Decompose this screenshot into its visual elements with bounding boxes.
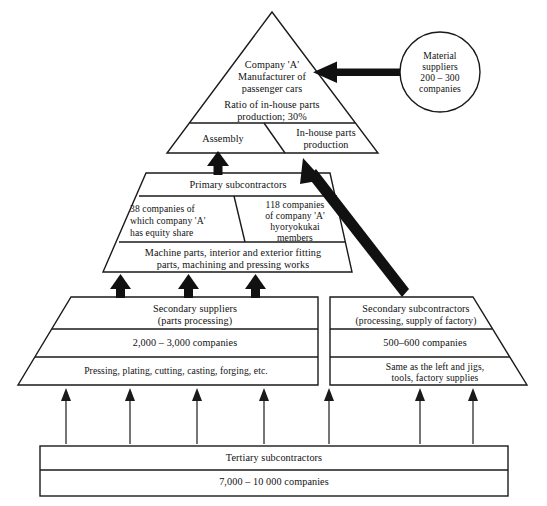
material-suppliers-line2: suppliers xyxy=(405,61,475,72)
apex-inhouse-line2: production xyxy=(283,139,369,151)
arrow-secondary-to-primary-1 xyxy=(110,274,131,298)
apex-company-line2: Manufacturer of xyxy=(197,71,347,83)
secondary-suppliers-heading-line2: (parts processing) xyxy=(80,315,310,327)
arrow-tertiary-1 xyxy=(61,388,71,444)
diagram-canvas: Company 'A' Manufacturer of passenger ca… xyxy=(0,0,547,506)
primary-left-line1: 38 companies of xyxy=(130,203,230,214)
arrow-tertiary-2 xyxy=(125,388,135,444)
arrow-primary-to-assembly xyxy=(207,151,229,175)
secondary-sub-heading-line1: Secondary subcontractors xyxy=(336,303,496,315)
secondary-suppliers-detail: Pressing, plating, cutting, casting, for… xyxy=(40,365,312,376)
primary-works-line2: parts, machining and pressing works xyxy=(113,259,353,271)
secondary-sub-detail-line1: Same as the left and jigs, xyxy=(355,361,515,372)
secondary-sub-heading-line2: (processing, supply of factory) xyxy=(332,315,500,326)
apex-assembly-label: Assembly xyxy=(178,133,268,145)
apex-ratio-line1: Ratio of in-house parts xyxy=(186,99,358,111)
arrow-tertiary-3 xyxy=(192,388,202,444)
secondary-suppliers-heading-line1: Secondary suppliers xyxy=(80,303,310,315)
apex-company-line3: passenger cars xyxy=(197,83,347,95)
arrow-tertiary-4 xyxy=(259,388,269,444)
arrow-tertiary-7 xyxy=(468,388,478,444)
apex-inhouse-line1: In-house parts xyxy=(283,127,369,139)
primary-left-line3: has equity share xyxy=(130,227,235,238)
secondary-sub-count: 500–600 companies xyxy=(345,337,505,349)
material-suppliers-line3: 200 – 300 xyxy=(405,72,475,83)
primary-heading: Primary subcontractors xyxy=(148,179,328,191)
primary-right-line1: 118 companies xyxy=(250,199,340,210)
secondary-suppliers-count: 2,000 – 3,000 companies xyxy=(60,337,310,349)
arrow-tertiary-5 xyxy=(324,388,334,444)
material-suppliers-line1: Material xyxy=(405,50,475,61)
secondary-sub-detail-line2: tools, factory supplies xyxy=(355,372,515,383)
primary-works-line1: Machine parts, interior and exterior fit… xyxy=(113,247,353,259)
primary-left-line2: which company 'A' xyxy=(130,215,235,226)
arrow-secondary-to-primary-3 xyxy=(245,274,266,298)
apex-ratio-line2: production; 30% xyxy=(186,111,358,123)
apex-company-line1: Company 'A' xyxy=(197,59,347,71)
tertiary-count: 7,000 – 10 000 companies xyxy=(40,476,508,488)
primary-right-line4: members xyxy=(250,232,340,243)
material-suppliers-line4: companies xyxy=(405,83,475,94)
primary-right-line3: hyoryokukai xyxy=(250,221,340,232)
arrow-secondary-to-primary-2 xyxy=(178,274,199,298)
arrow-tertiary-6 xyxy=(415,388,425,444)
primary-right-line2: of company 'A' xyxy=(250,210,340,221)
tertiary-heading: Tertiary subcontractors xyxy=(40,452,508,464)
